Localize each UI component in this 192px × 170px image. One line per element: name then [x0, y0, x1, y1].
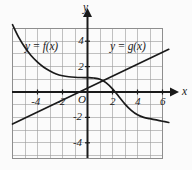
x-tick-label: -2 [56, 96, 65, 107]
graph-figure: y x O y = f(x) y = g(x) -4-224642-2-4 [0, 0, 192, 170]
coordinate-plane [0, 0, 192, 170]
curve-label-f: y = f(x) [25, 41, 58, 53]
y-axis-label: y [83, 2, 88, 14]
origin-label: O [78, 94, 86, 105]
y-tick-label: 2 [78, 61, 83, 72]
x-tick-label: 2 [110, 96, 115, 107]
y-tick-label: 4 [78, 35, 83, 46]
x-axis-arrowhead [170, 88, 179, 97]
x-tick-label: 4 [135, 96, 140, 107]
x-axis-label: x [182, 86, 187, 98]
axis-lines [12, 8, 179, 158]
y-tick-label: -2 [73, 111, 82, 122]
y-tick-label: -4 [73, 137, 82, 148]
x-tick-label: 6 [160, 96, 165, 107]
x-tick-label: -4 [31, 96, 40, 107]
curve-label-g: y = g(x) [110, 41, 146, 53]
